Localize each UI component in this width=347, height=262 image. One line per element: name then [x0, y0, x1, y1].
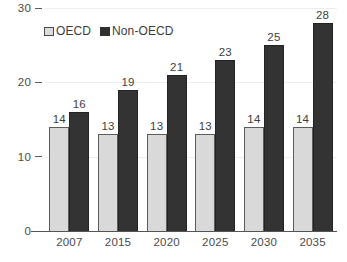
bar[interactable]	[98, 134, 118, 231]
bar-group: 1416	[49, 8, 89, 231]
bar-slot: 25	[264, 8, 284, 231]
y-axis-tick-dash	[35, 156, 42, 157]
bar[interactable]	[118, 90, 138, 231]
legend-item-label: OECD	[56, 24, 91, 38]
y-axis-tick-label: 30	[18, 2, 31, 14]
y-axis: 30 20 10 0	[0, 0, 45, 262]
x-axis-tick-label: 2030	[241, 236, 287, 248]
bar[interactable]	[264, 45, 284, 231]
bar-slot: 16	[69, 8, 89, 231]
bar-value-label: 14	[247, 113, 260, 125]
bar[interactable]	[215, 60, 235, 231]
bar-value-label: 14	[53, 113, 66, 125]
bar[interactable]	[244, 127, 264, 231]
bar-value-label: 23	[219, 46, 232, 58]
bar-value-label: 25	[267, 31, 280, 43]
bar[interactable]	[195, 134, 215, 231]
bar-slot: 14	[293, 8, 313, 231]
bar-group: 1425	[244, 8, 284, 231]
bar-group: 1319	[98, 8, 138, 231]
plot-area: 141613191321132314251428	[45, 8, 337, 232]
bar[interactable]	[49, 127, 69, 231]
x-axis-tick-label: 2015	[95, 236, 141, 248]
bar-slot: 19	[118, 8, 138, 231]
bar-value-label: 13	[199, 120, 212, 132]
bar-groups: 141613191321132314251428	[45, 8, 337, 231]
bar-value-label: 16	[73, 98, 86, 110]
bar-value-label: 14	[296, 113, 309, 125]
y-axis-tick-label: 10	[18, 151, 31, 163]
x-axis-tick-label: 2035	[290, 236, 336, 248]
bar-slot: 28	[313, 8, 333, 231]
legend-item-oecd: OECD	[44, 24, 91, 38]
bar-value-label: 21	[170, 61, 183, 73]
bar-slot: 13	[98, 8, 118, 231]
x-axis-tick-label: 2020	[144, 236, 190, 248]
x-axis: 200720152020202520302035	[45, 236, 337, 258]
bar[interactable]	[69, 112, 89, 231]
bar[interactable]	[167, 75, 187, 231]
legend-swatch-icon	[44, 27, 54, 36]
bar-slot: 13	[195, 8, 215, 231]
x-axis-tick-label: 2025	[192, 236, 238, 248]
bar[interactable]	[293, 127, 313, 231]
bar-slot: 13	[147, 8, 167, 231]
bar-value-label: 19	[121, 76, 134, 88]
bar-slot: 14	[244, 8, 264, 231]
bar-group: 1321	[147, 8, 187, 231]
legend-item-label: Non-OECD	[112, 24, 173, 38]
bar-group: 1323	[195, 8, 235, 231]
y-axis-tick: 20	[18, 75, 45, 89]
bar-value-label: 13	[150, 120, 163, 132]
y-axis-tick-label: 20	[18, 76, 31, 88]
bar-slot: 21	[167, 8, 187, 231]
bar-slot: 14	[49, 8, 69, 231]
x-axis-tick-label: 2007	[46, 236, 92, 248]
bar-group: 1428	[293, 8, 333, 231]
legend-swatch-icon	[100, 27, 110, 36]
bar-chart: 30 20 10 0 141613191321132314251428 2007…	[0, 0, 347, 262]
y-axis-tick-dash	[35, 82, 42, 83]
y-axis-tick: 10	[18, 150, 45, 164]
bar[interactable]	[313, 23, 333, 231]
bar-value-label: 13	[101, 120, 114, 132]
y-axis-tick-dash	[35, 8, 42, 9]
bar-slot: 23	[215, 8, 235, 231]
bar[interactable]	[147, 134, 167, 231]
y-axis-tick: 30	[18, 1, 45, 15]
y-axis-tick-label: 0	[24, 225, 31, 237]
bar-value-label: 28	[316, 9, 329, 21]
chart-legend: OECD Non-OECD	[44, 24, 174, 38]
legend-item-non-oecd: Non-OECD	[100, 24, 173, 38]
